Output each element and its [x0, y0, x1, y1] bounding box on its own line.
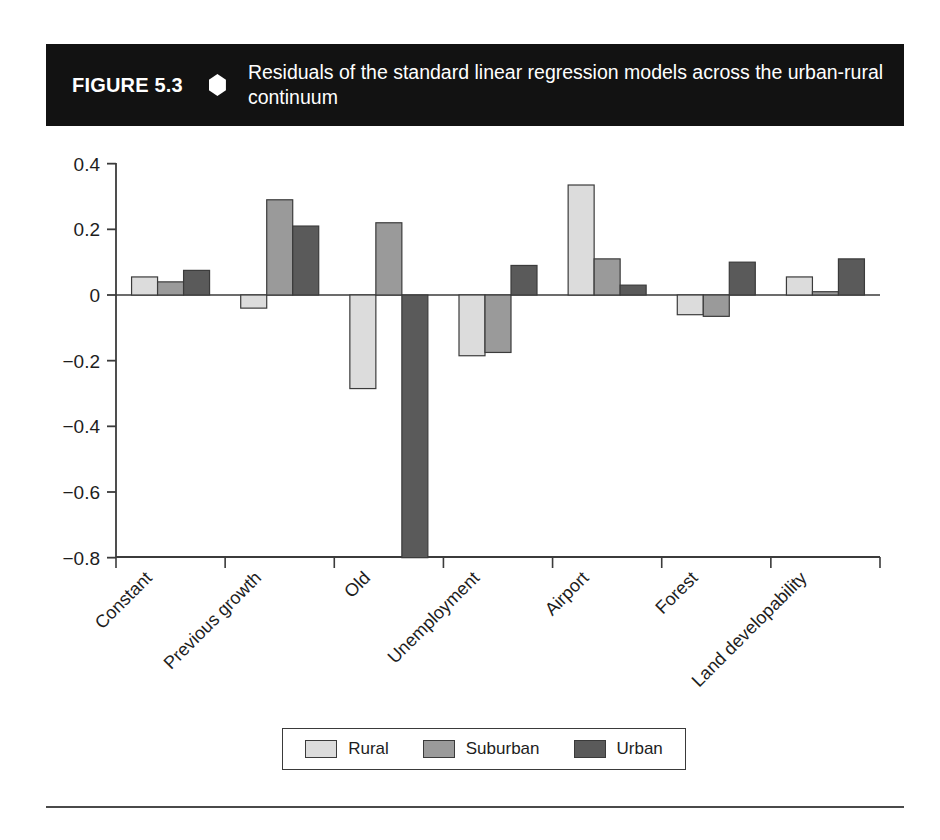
bar-urban-6 [838, 259, 864, 295]
bar-suburban-0 [158, 282, 184, 295]
x-axis-category-label: Airport [541, 568, 593, 620]
x-axis-category-label: Unemployment [384, 568, 484, 668]
bar-urban-5 [729, 262, 755, 295]
y-axis-tick-label: 0.2 [74, 219, 100, 240]
x-axis-category-label: Previous growth [160, 568, 265, 673]
y-axis-tick-label: 0 [89, 285, 100, 306]
legend-item-rural: Rural [305, 739, 389, 759]
bar-rural-4 [568, 185, 594, 295]
y-axis-tick-label: −0.2 [62, 351, 100, 372]
y-axis-tick-label: −0.8 [62, 548, 100, 569]
bar-urban-4 [620, 285, 646, 295]
diamond-bullet-icon [209, 74, 226, 96]
legend-item-suburban: Suburban [423, 739, 540, 759]
bar-rural-1 [241, 295, 267, 308]
x-axis [116, 295, 880, 568]
legend-item-urban: Urban [574, 739, 663, 759]
bar-suburban-4 [594, 259, 620, 295]
y-axis-tick-label: −0.6 [62, 482, 100, 503]
bar-urban-3 [511, 265, 537, 295]
y-axis: 0.40.20−0.2−0.4−0.6−0.8 [62, 154, 116, 569]
x-axis-category-label: Forest [651, 568, 701, 618]
bar-urban-0 [184, 270, 210, 295]
footer-divider [46, 806, 904, 808]
bar-rural-3 [459, 295, 485, 356]
bar-suburban-3 [485, 295, 511, 352]
bar-urban-2 [402, 295, 428, 558]
bar-rural-5 [677, 295, 703, 315]
bar-chart-svg: 0.40.20−0.2−0.4−0.6−0.8 ConstantPrevious… [0, 0, 940, 840]
figure-title-banner: FIGURE 5.3 Residuals of the standard lin… [46, 44, 904, 126]
bar-suburban-6 [812, 292, 838, 295]
bar-series-group [132, 185, 865, 558]
x-axis-category-label: Old [340, 568, 374, 602]
x-axis-category-label: Land developability [688, 568, 811, 691]
bar-rural-0 [132, 277, 158, 295]
bar-suburban-5 [703, 295, 729, 316]
bar-suburban-1 [267, 200, 293, 295]
legend-label-urban: Urban [617, 739, 663, 759]
bar-rural-6 [786, 277, 812, 295]
chart-plot-area: 0.40.20−0.2−0.4−0.6−0.8 ConstantPrevious… [0, 0, 940, 840]
y-axis-tick-label: 0.4 [74, 154, 101, 175]
y-axis-tick-label: −0.4 [62, 416, 100, 437]
chart-legend: Rural Suburban Urban [282, 728, 686, 770]
x-axis-category-label: Constant [91, 568, 156, 633]
legend-swatch-urban [574, 740, 606, 758]
bar-suburban-2 [376, 223, 402, 295]
figure-caption: Residuals of the standard linear regress… [248, 60, 888, 110]
figure-number-label: FIGURE 5.3 [72, 74, 183, 97]
category-labels: ConstantPrevious growthOldUnemploymentAi… [91, 568, 811, 691]
legend-label-rural: Rural [348, 739, 389, 759]
bar-rural-2 [350, 295, 376, 389]
legend-swatch-suburban [423, 740, 455, 758]
bar-urban-1 [293, 226, 319, 295]
legend-label-suburban: Suburban [466, 739, 540, 759]
legend-swatch-rural [305, 740, 337, 758]
